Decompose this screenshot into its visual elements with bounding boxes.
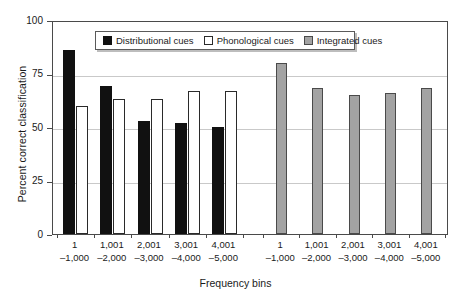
x-label-line1: 3,001 [371, 239, 407, 252]
x-axis-tick-mark [243, 234, 244, 238]
x-axis-tick-mark [263, 234, 264, 238]
x-axis-tick-label: 1,001–2,000 [298, 239, 334, 264]
y-axis-tick-label: 50 [32, 122, 43, 133]
bar [63, 50, 75, 234]
bar [212, 127, 224, 234]
plot-area [52, 21, 448, 235]
x-label-line2: –3,000 [130, 252, 167, 265]
x-label-line1: 2,001 [335, 239, 371, 252]
x-axis-tick-mark [94, 234, 95, 238]
bar [225, 91, 237, 234]
x-label-line2: –3,000 [335, 252, 371, 265]
bar [188, 91, 200, 234]
x-axis-tick-mark [445, 234, 446, 238]
y-axis-tick-label: 25 [32, 175, 43, 186]
x-label-line1: 1 [56, 239, 93, 252]
bar [151, 99, 163, 234]
x-label-line1: 1 [262, 239, 298, 252]
y-axis-tick: 100 [0, 21, 52, 22]
x-label-line1: 1,001 [298, 239, 334, 252]
x-label-line1: 4,001 [408, 239, 444, 252]
bar [385, 93, 396, 234]
x-label-line2: –4,000 [168, 252, 205, 265]
bar [138, 121, 150, 234]
chart-legend: Distributional cuesPhonological cuesInte… [95, 31, 355, 50]
y-axis-tick-label: 0 [37, 229, 43, 240]
x-axis-tick-mark [57, 234, 58, 238]
x-axis-tick-mark [131, 234, 132, 238]
legend-item: Distributional cues [103, 35, 194, 46]
x-axis-tick-mark [409, 234, 410, 238]
y-axis-tick: 25 [0, 182, 52, 183]
x-axis-tick-label: 1–1,000 [56, 239, 93, 264]
x-label-line2: –4,000 [371, 252, 407, 265]
x-label-line2: –5,000 [205, 252, 242, 265]
x-axis-tick-labels: 1–1,0001,001–2,0002,001–3,0003,001–4,000… [52, 239, 448, 269]
x-axis-tick-mark [299, 234, 300, 238]
bar [349, 95, 360, 234]
bar [175, 123, 187, 234]
x-axis-tick-label: 1–1,000 [262, 239, 298, 264]
x-axis-tick-label: 2,001–3,000 [130, 239, 167, 264]
y-axis-tick: 50 [0, 128, 52, 129]
bar [312, 88, 323, 234]
x-label-line2: –2,000 [93, 252, 130, 265]
x-axis-tick-label: 3,001–4,000 [371, 239, 407, 264]
y-axis-ticks: 0255075100 [0, 0, 52, 236]
bar [276, 63, 287, 234]
legend-label: Phonological cues [217, 35, 294, 46]
x-axis-tick-label: 4,001–5,000 [205, 239, 242, 264]
legend-label: Distributional cues [116, 35, 194, 46]
x-axis-tick-label: 4,001–5,000 [408, 239, 444, 264]
bar [76, 106, 88, 234]
legend-item: Phonological cues [204, 35, 294, 46]
y-axis-tick: 0 [0, 235, 52, 236]
bar [100, 86, 112, 234]
x-label-line1: 4,001 [205, 239, 242, 252]
x-axis-tick-label: 3,001–4,000 [168, 239, 205, 264]
legend-label: Integrated cues [317, 35, 383, 46]
bar-chart: Percent correct classification 025507510… [0, 0, 471, 301]
x-axis-tick-mark [336, 234, 337, 238]
x-axis-tick-mark [206, 234, 207, 238]
y-axis-tick-label: 75 [32, 68, 43, 79]
x-axis-title: Frequency bins [0, 277, 471, 289]
bars-container [53, 22, 447, 234]
x-axis-tick-label: 2,001–3,000 [335, 239, 371, 264]
legend-swatch-grey [304, 36, 313, 45]
legend-item: Integrated cues [304, 35, 383, 46]
bar [113, 99, 125, 234]
bar [421, 88, 432, 234]
y-axis-tick-mark [47, 235, 52, 236]
x-label-line2: –1,000 [56, 252, 93, 265]
legend-swatch-white [204, 36, 213, 45]
x-label-line2: –1,000 [262, 252, 298, 265]
x-label-line2: –5,000 [408, 252, 444, 265]
x-axis-tick-mark [372, 234, 373, 238]
y-axis-tick: 75 [0, 75, 52, 76]
x-label-line2: –2,000 [298, 252, 334, 265]
legend-swatch-dark [103, 36, 112, 45]
x-axis-tick-label: 1,001–2,000 [93, 239, 130, 264]
x-label-line1: 1,001 [93, 239, 130, 252]
x-label-line1: 3,001 [168, 239, 205, 252]
y-axis-tick-label: 100 [26, 15, 43, 26]
x-label-line1: 2,001 [130, 239, 167, 252]
x-axis-tick-mark [169, 234, 170, 238]
